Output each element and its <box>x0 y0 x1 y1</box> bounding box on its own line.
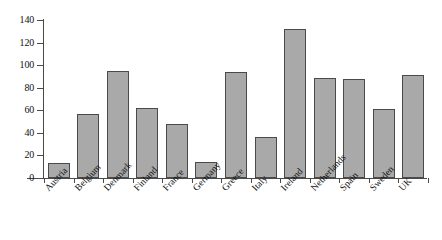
y-axis-tick-label-text: 20 <box>0 150 34 160</box>
x-axis-category-label-text: Spain <box>338 170 360 193</box>
y-axis-tick-label-text: 40 <box>0 128 34 138</box>
y-axis-tick-label-text: 60 <box>0 105 34 115</box>
y-axis-tick-label: 0 <box>0 173 34 183</box>
x-axis-category-label-text: France <box>161 167 186 193</box>
y-axis-tick <box>37 88 44 89</box>
y-axis-tick-label-text: 140 <box>0 15 34 25</box>
y-axis-tick-label: 60 <box>0 105 34 115</box>
bar <box>284 29 306 178</box>
bar <box>225 72 247 178</box>
y-axis-tick-label: 20 <box>0 150 34 160</box>
y-axis-tick-label-text: 120 <box>0 38 34 48</box>
bar <box>343 79 365 178</box>
y-axis-tick <box>37 155 44 156</box>
y-axis-tick-label: 100 <box>0 60 34 70</box>
y-axis-tick <box>37 133 44 134</box>
bar-chart: 020406080100120140 AustriaBelgiumDenmark… <box>0 0 442 240</box>
y-axis-tick <box>37 110 44 111</box>
bar <box>402 75 424 178</box>
y-axis-tick-label: 80 <box>0 83 34 93</box>
y-axis-tick-label-text: 100 <box>0 60 34 70</box>
bar <box>255 137 277 178</box>
x-axis-category-label-text: Italy <box>250 173 269 193</box>
y-axis-tick <box>37 43 44 44</box>
y-axis-tick <box>37 178 44 179</box>
y-axis-tick <box>37 65 44 66</box>
y-axis-tick-label: 140 <box>0 15 34 25</box>
y-axis-tick <box>37 20 44 21</box>
y-axis-tick-label: 120 <box>0 38 34 48</box>
y-axis-tick-label-text: 80 <box>0 83 34 93</box>
x-axis-tick <box>428 178 429 183</box>
y-axis-tick-label: 40 <box>0 128 34 138</box>
y-axis-tick-label-text: 0 <box>0 173 34 183</box>
